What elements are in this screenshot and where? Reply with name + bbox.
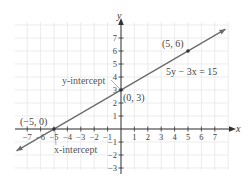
x-tick-label: −5 <box>49 132 58 142</box>
point-label-0-3: (0, 3) <box>123 92 145 104</box>
x-tick-label: −2 <box>90 132 99 142</box>
x-tick-label: −3 <box>76 132 85 142</box>
x-tick-label: 3 <box>159 132 163 142</box>
data-point <box>52 127 56 131</box>
y-tick-label: −3 <box>108 163 117 173</box>
x-tick-label: 7 <box>213 132 217 142</box>
x-tick-label: 6 <box>199 132 203 142</box>
point-label-5-6: (5, 6) <box>162 38 184 50</box>
x-tick-label: 1 <box>132 132 136 142</box>
x-intercept-label: x-intercept <box>54 144 98 155</box>
y-intercept-label: y-intercept <box>62 75 106 86</box>
equation-label: 5y − 3x = 15 <box>166 66 217 77</box>
y-tick-label: 1 <box>113 111 117 121</box>
data-point <box>186 49 190 53</box>
y-tick-label: 2 <box>113 98 117 108</box>
x-tick-label: 2 <box>146 132 150 142</box>
x-axis-label: x <box>235 123 241 134</box>
y-tick-label: 6 <box>113 46 117 56</box>
x-tick-label: 4 <box>172 132 177 142</box>
x-tick-label: −4 <box>63 132 73 142</box>
coordinate-plane: −7−6−5−4−3−2−11234567−3−2−11234567 y x 5… <box>0 0 248 195</box>
y-axis-label: y <box>116 10 122 21</box>
x-tick-label: 5 <box>186 132 190 142</box>
x-axis-arrow-icon <box>229 126 236 132</box>
point-label-neg5-0: (−5, 0) <box>20 116 47 128</box>
y-tick-label: −2 <box>108 150 117 160</box>
x-tick-label: −7 <box>23 132 32 142</box>
y-tick-label: 5 <box>113 59 117 69</box>
grid-lines <box>15 22 228 170</box>
y-tick-label: −1 <box>108 137 117 147</box>
y-tick-label: 7 <box>113 33 117 43</box>
